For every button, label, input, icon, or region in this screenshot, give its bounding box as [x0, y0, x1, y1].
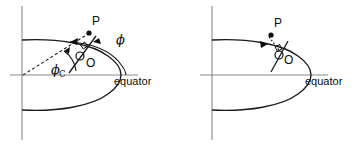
panel-right: P O equator [180, 0, 360, 146]
left-diagram-svg: P O ϕ ϕ C equator [0, 0, 180, 146]
label-point-o-right: O [284, 53, 293, 67]
label-equator-right: equator [305, 75, 343, 87]
label-point-o: O [86, 56, 95, 70]
point-p-dot-right [268, 32, 273, 37]
label-point-p-right: P [274, 16, 282, 30]
arrowhead-surface-right [260, 41, 268, 48]
point-p-dot [86, 30, 91, 35]
ellipsoid-lower-arc [22, 75, 121, 110]
ellipsoid-lower-arc-right [212, 75, 311, 110]
panel-left: P O ϕ ϕ C equator [0, 0, 180, 146]
label-equator: equator [114, 75, 152, 87]
label-point-p: P [92, 14, 100, 28]
label-phi: ϕ [116, 32, 125, 47]
figure-container: P O ϕ ϕ C equator [0, 0, 360, 146]
right-diagram-svg: P O equator [180, 0, 360, 146]
label-phi-c-subscript: C [59, 69, 66, 79]
arrowhead-phi-upper [70, 38, 78, 45]
angle-sweep-arc-phi-c [64, 51, 76, 71]
normal-dotted-line-right [269, 37, 279, 50]
